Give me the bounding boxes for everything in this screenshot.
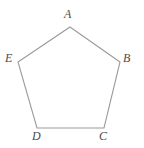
pentagon-figure: A B C D E [0, 0, 144, 148]
vertex-label-d: D [32, 130, 41, 142]
vertex-label-e: E [5, 52, 12, 64]
vertex-label-c: C [99, 130, 107, 142]
vertex-label-a: A [64, 8, 71, 20]
pentagon-outline [18, 27, 120, 128]
vertex-label-b: B [123, 52, 130, 64]
pentagon-shape [0, 0, 144, 148]
